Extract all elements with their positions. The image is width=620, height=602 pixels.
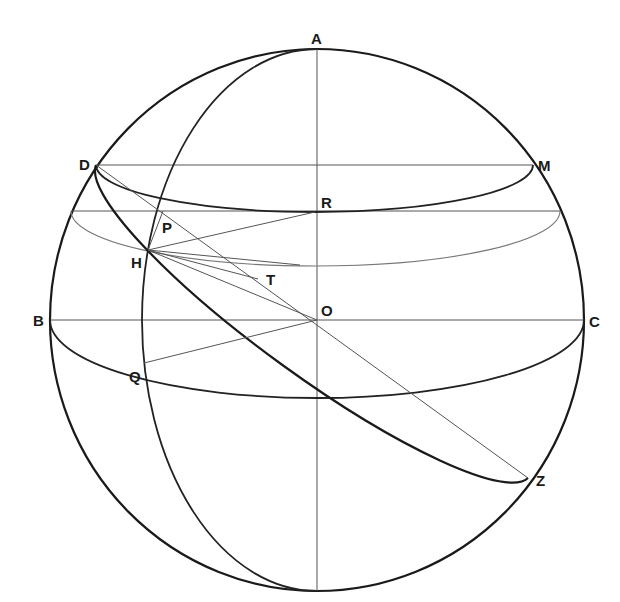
label-H: H	[131, 254, 142, 271]
label-B: B	[33, 312, 44, 329]
label-M: M	[538, 157, 551, 174]
label-A: A	[311, 30, 322, 47]
segment-HO	[148, 250, 317, 320]
small-circle-DM	[96, 165, 533, 212]
sphere-diagram: A D M R P H T O B C Q Z	[0, 0, 620, 602]
segment-HR	[148, 212, 315, 250]
label-T: T	[266, 271, 275, 288]
label-R: R	[321, 194, 332, 211]
segment-H-circle	[148, 250, 300, 265]
small-circle-mid	[71, 211, 560, 266]
label-C: C	[589, 313, 600, 330]
label-Q: Q	[129, 368, 141, 385]
label-D: D	[79, 156, 90, 173]
label-O: O	[321, 302, 333, 319]
label-Z: Z	[536, 472, 545, 489]
label-P: P	[162, 219, 172, 236]
segment-HT	[148, 250, 258, 279]
